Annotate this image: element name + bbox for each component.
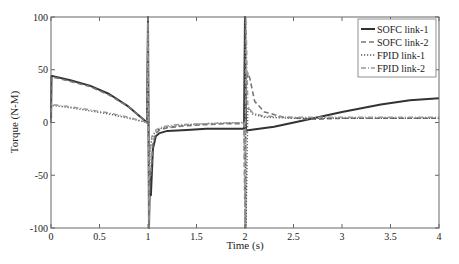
legend-label: FPID link-1 bbox=[377, 50, 425, 61]
x-tick-label: 0 bbox=[49, 231, 54, 242]
x-tick-label: 2.5 bbox=[287, 231, 300, 242]
y-tick-label: 50 bbox=[38, 64, 48, 75]
y-tick-label: -100 bbox=[30, 223, 48, 234]
y-tick-label: 100 bbox=[33, 12, 48, 23]
torque-chart: 00.511.522.533.54 -100-50050100 Time (s)… bbox=[0, 0, 459, 264]
x-tick-label: 0.5 bbox=[93, 231, 106, 242]
y-tick-label: 0 bbox=[43, 117, 48, 128]
y-axis-title: Torque (N-M) bbox=[8, 90, 21, 153]
x-tick-label: 1 bbox=[146, 231, 151, 242]
legend-label: FPID link-2 bbox=[377, 63, 425, 74]
legend: SOFC link-1SOFC link-2FPID link-1FPID li… bbox=[358, 19, 436, 77]
legend-label: SOFC link-1 bbox=[377, 24, 428, 35]
x-tick-label: 3.5 bbox=[384, 231, 397, 242]
y-tick-label: -50 bbox=[35, 170, 48, 181]
legend-label: SOFC link-2 bbox=[377, 37, 428, 48]
x-axis-title: Time (s) bbox=[226, 239, 264, 252]
x-tick-label: 1.5 bbox=[190, 231, 203, 242]
x-tick-label: 4 bbox=[437, 231, 442, 242]
x-tick-label: 3 bbox=[340, 231, 345, 242]
